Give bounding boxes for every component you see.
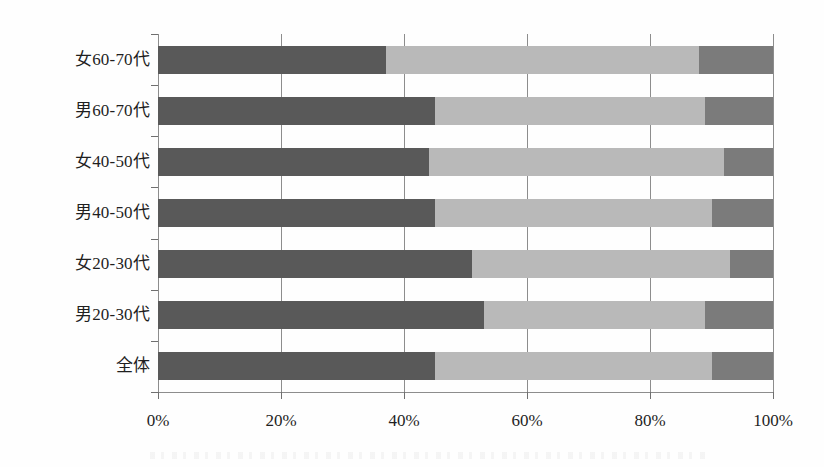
bar-segment-1 <box>158 250 472 278</box>
x-tick-mark <box>158 392 159 399</box>
y-axis-category-label: 女20-30代 <box>2 255 150 272</box>
bar-segment-2 <box>429 148 724 176</box>
y-tick-mark <box>151 187 158 188</box>
x-axis-tick-label: 60% <box>511 412 542 429</box>
bar-segment-2 <box>435 97 706 125</box>
y-tick-mark <box>151 34 158 35</box>
bar-row <box>158 34 773 85</box>
y-tick-mark <box>151 290 158 291</box>
x-tick-mark <box>650 392 651 399</box>
gridline-100 <box>773 34 774 392</box>
bar-segment-2 <box>472 250 730 278</box>
x-axis-tick-label: 0% <box>147 412 170 429</box>
bar-row <box>158 85 773 136</box>
y-tick-mark <box>151 392 158 393</box>
x-axis-tick-label: 40% <box>388 412 419 429</box>
bar-segment-1 <box>158 301 484 329</box>
stacked-bar <box>158 352 773 380</box>
y-axis-category-label: 女60-70代 <box>2 51 150 68</box>
y-tick-mark <box>151 341 158 342</box>
stacked-bar <box>158 250 773 278</box>
x-axis-tick-label: 80% <box>634 412 665 429</box>
x-tick-mark <box>527 392 528 399</box>
bar-segment-3 <box>712 352 774 380</box>
x-axis-ticks <box>158 392 774 400</box>
bar-segment-3 <box>705 97 773 125</box>
stacked-bar <box>158 148 773 176</box>
bar-segment-1 <box>158 46 386 74</box>
y-axis-labels: 女60-70代男60-70代女40-50代男40-50代女20-30代男20-3… <box>0 34 150 392</box>
bar-segment-1 <box>158 97 435 125</box>
page-artifact-strip <box>150 452 710 459</box>
plot-area <box>158 34 773 392</box>
bar-row <box>158 290 773 341</box>
bar-segment-3 <box>712 199 774 227</box>
bar-row <box>158 239 773 290</box>
bar-segment-2 <box>386 46 700 74</box>
bar-segment-3 <box>730 250 773 278</box>
y-axis-category-label: 男40-50代 <box>2 204 150 221</box>
bar-segment-2 <box>435 199 712 227</box>
y-axis-category-label: 全体 <box>2 357 150 374</box>
y-tick-mark <box>151 85 158 86</box>
x-axis-labels: 0%20%40%60%80%100% <box>0 412 824 438</box>
y-tick-mark <box>151 239 158 240</box>
x-tick-mark <box>773 392 774 399</box>
bar-segment-1 <box>158 352 435 380</box>
stacked-bar <box>158 97 773 125</box>
bar-segment-3 <box>705 301 773 329</box>
bar-segment-2 <box>484 301 705 329</box>
bar-segment-1 <box>158 199 435 227</box>
x-tick-mark <box>404 392 405 399</box>
bar-segment-3 <box>699 46 773 74</box>
bar-segment-1 <box>158 148 429 176</box>
y-axis-category-label: 男20-30代 <box>2 306 150 323</box>
bar-segment-2 <box>435 352 712 380</box>
bar-segment-3 <box>724 148 773 176</box>
stacked-bar-chart: 女60-70代男60-70代女40-50代男40-50代女20-30代男20-3… <box>0 0 824 467</box>
bar-row <box>158 136 773 187</box>
x-axis-tick-label: 20% <box>265 412 296 429</box>
x-tick-mark <box>281 392 282 399</box>
x-axis-tick-label: 100% <box>753 412 793 429</box>
bar-row <box>158 341 773 392</box>
y-axis-category-label: 女40-50代 <box>2 153 150 170</box>
stacked-bar <box>158 46 773 74</box>
stacked-bar <box>158 199 773 227</box>
bar-row <box>158 187 773 238</box>
y-tick-mark <box>151 136 158 137</box>
y-axis-category-label: 男60-70代 <box>2 102 150 119</box>
stacked-bar <box>158 301 773 329</box>
